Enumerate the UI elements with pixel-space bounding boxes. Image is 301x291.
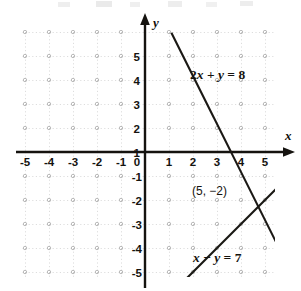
x-axis-label: x [284,128,292,143]
coordinate-plane-svg: y x -5 -4 -3 -2 -1 0 1 2 3 4 5 [0,0,301,291]
x-tick-4: 4 [238,156,245,168]
y-tick--5: -5 [132,267,143,279]
x-tick--3: -3 [68,156,78,168]
x-tick-3: 3 [214,156,220,168]
x-tick-5: 5 [262,156,269,168]
y-tick-1: 1 [134,147,141,159]
intersection-point-label: (5, −2) [192,184,227,198]
graph-figure: y x -5 -4 -3 -2 -1 0 1 2 3 4 5 [0,0,301,291]
y-tick--2: -2 [132,195,142,207]
y-tick--3: -3 [132,219,142,231]
scan-artifacts [58,1,253,7]
y-tick--4: -4 [132,243,143,255]
x-tick--4: -4 [44,156,55,168]
x-tick--1: -1 [116,156,127,168]
y-tick-3: 3 [134,99,140,111]
y-tick-5: 5 [134,51,141,63]
y-tick-2: 2 [134,123,140,135]
y-tick-4: 4 [134,75,141,87]
x-tick--5: -5 [20,156,31,168]
equation-label-line-one: 2x + y = 8 [190,67,245,82]
y-axis-label: y [151,15,159,30]
equation-label-line-two: x − y = 7 [192,250,242,265]
x-tick--2: -2 [92,156,102,168]
x-tick-1: 1 [166,156,173,168]
y-tick--1: -1 [132,171,143,183]
x-tick-2: 2 [190,156,196,168]
